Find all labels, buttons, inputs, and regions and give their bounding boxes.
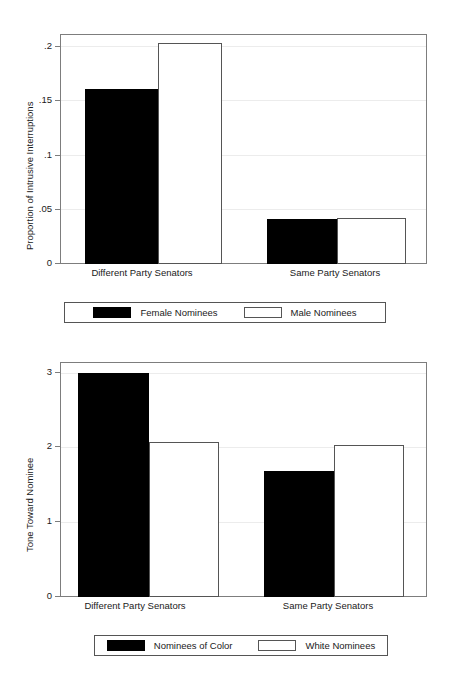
- y-tick-label-panel2-3: 0: [20, 591, 52, 601]
- y-tick-label-panel1-4: 0: [20, 258, 52, 268]
- bar-panel1-different-female: [85, 89, 158, 264]
- y-axis-title-panel2: Tone Toward Nominee: [24, 458, 35, 552]
- legend-item-panel2-white: White Nominees: [258, 640, 375, 651]
- legend-swatch-white-icon: [244, 307, 282, 318]
- x-label-panel1-different-party: Different Party Senators: [62, 267, 222, 278]
- y-tick-label-panel1-1: .15: [20, 95, 52, 105]
- plot-area-panel2: [60, 362, 427, 597]
- legend-label-panel2-white: White Nominees: [305, 640, 375, 651]
- legend-item-panel1-female: Female Nominees: [93, 307, 217, 318]
- y-tick-label-panel2-1: 2: [20, 441, 52, 451]
- legend-item-panel1-male: Male Nominees: [244, 307, 357, 318]
- gridline-panel1-02: [61, 46, 426, 47]
- legend-swatch-black-icon: [93, 307, 131, 318]
- legend-panel1: Female Nominees Male Nominees: [64, 302, 386, 323]
- y-tick-label-panel2-2: 1: [20, 516, 52, 526]
- chart-panel-intrusive-interruptions: Proportion of Intrusive Interruptions .2…: [0, 0, 449, 330]
- legend-label-panel1-female: Female Nominees: [140, 307, 217, 318]
- plot-area-panel1: [60, 34, 427, 264]
- bar-panel2-different-white: [149, 442, 219, 597]
- y-tick-label-panel1-2: .1: [20, 150, 52, 160]
- legend-swatch-white-icon: [258, 640, 296, 651]
- legend-label-panel2-color: Nominees of Color: [154, 640, 233, 651]
- x-label-panel2-different-party: Different Party Senators: [55, 600, 215, 611]
- bar-panel2-different-color: [78, 373, 149, 597]
- chart-panel-tone-toward-nominee: Tone Toward Nominee 3 2 1 0 Different Pa…: [0, 330, 449, 676]
- legend-swatch-black-icon: [107, 640, 145, 651]
- y-tick-label-panel2-0: 3: [20, 367, 52, 377]
- figure-two-bar-charts: Proportion of Intrusive Interruptions .2…: [0, 0, 449, 676]
- y-axis-title-panel1: Proportion of Intrusive Interruptions: [24, 102, 35, 250]
- y-tick-label-panel1-3: .05: [20, 204, 52, 214]
- bar-panel2-same-color: [264, 471, 334, 597]
- bar-panel1-same-female: [267, 219, 337, 264]
- legend-label-panel1-male: Male Nominees: [291, 307, 357, 318]
- bar-panel1-same-white: [337, 218, 406, 264]
- bar-panel2-same-white: [334, 445, 404, 597]
- legend-item-panel2-color: Nominees of Color: [107, 640, 233, 651]
- bar-panel1-different-male: [158, 43, 222, 264]
- legend-panel2: Nominees of Color White Nominees: [94, 635, 388, 656]
- y-tick-label-panel1-0: .2: [20, 41, 52, 51]
- x-label-panel1-same-party: Same Party Senators: [255, 267, 415, 278]
- x-label-panel2-same-party: Same Party Senators: [248, 600, 408, 611]
